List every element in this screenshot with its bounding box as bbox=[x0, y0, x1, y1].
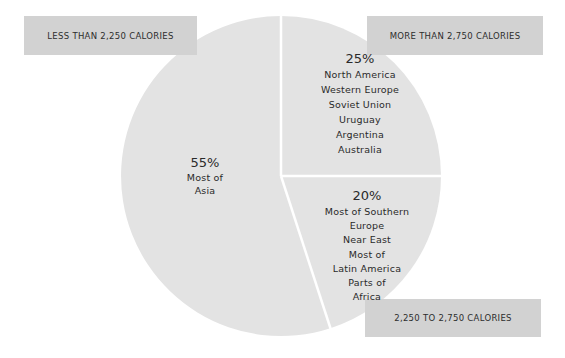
region-label: Soviet Union bbox=[290, 97, 430, 112]
region-label: Western Europe bbox=[290, 82, 430, 97]
region-label: Near East bbox=[292, 232, 442, 247]
region-label: Europe bbox=[292, 219, 442, 232]
region-label: Australia bbox=[290, 142, 430, 157]
region-label: Asia bbox=[155, 184, 255, 197]
region-label: Most of Southern bbox=[292, 204, 442, 219]
region-label: Parts of bbox=[292, 275, 442, 290]
slice-percent: 20% bbox=[292, 188, 442, 204]
category-label-less-than-2250: LESS THAN 2,250 CALORIES bbox=[24, 16, 197, 55]
slice-percent: 25% bbox=[290, 51, 430, 67]
region-label: Uruguay bbox=[290, 112, 430, 127]
category-label-text: LESS THAN 2,250 CALORIES bbox=[47, 31, 173, 41]
slice-text-less-than-2250: 55% Most of Asia bbox=[155, 155, 255, 197]
region-label: Most of bbox=[155, 171, 255, 184]
region-label: Argentina bbox=[290, 127, 430, 142]
slice-percent: 55% bbox=[155, 155, 255, 171]
category-label-2250-to-2750: 2,250 TO 2,750 CALORIES bbox=[365, 299, 541, 337]
category-label-text: MORE THAN 2,750 CALORIES bbox=[390, 31, 521, 41]
region-label: North America bbox=[290, 67, 430, 82]
slice-text-2250-to-2750: 20% Most of Southern Europe Near East Mo… bbox=[292, 188, 442, 303]
category-label-more-than-2750: MORE THAN 2,750 CALORIES bbox=[367, 16, 543, 55]
region-label: Latin America bbox=[292, 262, 442, 275]
region-label: Most of bbox=[292, 247, 442, 262]
category-label-text: 2,250 TO 2,750 CALORIES bbox=[394, 313, 512, 323]
slice-text-more-than-2750: 25% North America Western Europe Soviet … bbox=[290, 51, 430, 157]
region-label: Africa bbox=[292, 290, 442, 303]
